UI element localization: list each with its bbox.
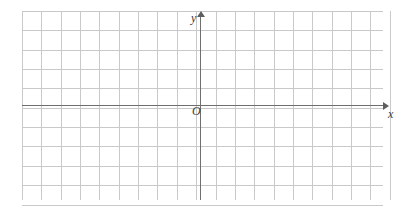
grid-line-horizontal	[22, 205, 383, 206]
grid-line-horizontal	[22, 166, 383, 167]
grid-line-horizontal	[22, 50, 383, 51]
y-axis-label: y	[191, 12, 196, 24]
coordinate-grid-figure: y x O	[0, 0, 405, 211]
x-axis-line	[22, 105, 386, 106]
arrow-up-icon	[197, 11, 205, 17]
grid-line-horizontal	[22, 69, 383, 70]
x-axis-label: x	[388, 108, 393, 120]
grid-line-horizontal	[22, 30, 383, 31]
grid-line-vertical	[390, 11, 391, 200]
grid-line-horizontal	[22, 108, 383, 109]
grid-line-horizontal	[22, 146, 383, 147]
grid-line-horizontal	[22, 127, 383, 128]
grid-line-horizontal	[22, 88, 383, 89]
grid-line-horizontal	[22, 185, 383, 186]
origin-label: O	[192, 105, 201, 117]
